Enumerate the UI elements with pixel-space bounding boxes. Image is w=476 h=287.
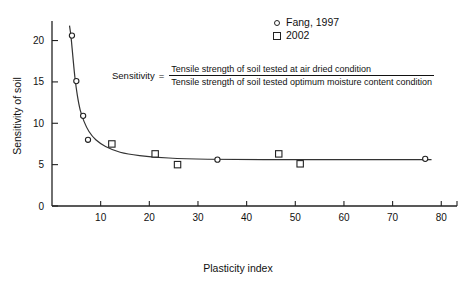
square-marker-icon	[272, 31, 281, 40]
x-tick-label: 10	[95, 212, 107, 223]
x-tick-label: 80	[436, 212, 448, 223]
x-tick-label: 40	[241, 212, 253, 223]
x-tick-label: 50	[290, 212, 302, 223]
circle-marker-icon	[272, 18, 281, 27]
equation-denominator: Tensile strength of soil tested optimum …	[169, 76, 434, 87]
chart-figure: 102030405060708005101520 Fang, 1997 2002…	[0, 0, 476, 287]
y-tick-label: 15	[33, 76, 45, 87]
axis-group	[52, 21, 457, 206]
chart-legend: Fang, 1997 2002	[272, 16, 339, 42]
data-point-circle	[74, 78, 79, 83]
fit-curve-group	[70, 26, 432, 160]
equation-numerator: Tensile strength of soil tested at air d…	[169, 64, 373, 75]
y-axis-label: Sensitivity of soil	[11, 41, 23, 191]
data-point-square	[109, 141, 115, 147]
y-tick-label: 0	[38, 201, 44, 212]
equation-fraction: Tensile strength of soil tested at air d…	[169, 64, 434, 87]
equation-equals-sign: =	[159, 70, 165, 81]
y-tick-label: 5	[38, 159, 44, 170]
data-points-group	[69, 33, 427, 168]
x-tick-label: 70	[387, 212, 399, 223]
plot-canvas: 102030405060708005101520	[0, 0, 476, 287]
equation-lhs: Sensitivity	[112, 70, 155, 81]
legend-label-2002: 2002	[286, 29, 309, 42]
data-point-square	[276, 151, 282, 157]
fit-curve-path	[70, 26, 432, 160]
legend-label-fang: Fang, 1997	[286, 16, 339, 29]
data-point-circle	[81, 113, 86, 118]
x-tick-label: 20	[144, 212, 156, 223]
x-axis-label: Plasticity index	[0, 262, 476, 274]
data-point-square	[174, 161, 180, 167]
data-point-square	[297, 161, 303, 167]
y-tick-label: 10	[33, 118, 45, 129]
legend-item-2002: 2002	[272, 29, 339, 42]
x-tick-label: 30	[192, 212, 204, 223]
data-point-circle	[423, 156, 428, 161]
data-point-circle	[85, 137, 90, 142]
legend-item-fang: Fang, 1997	[272, 16, 339, 29]
data-point-square	[152, 151, 158, 157]
data-point-circle	[215, 157, 220, 162]
x-tick-label: 60	[338, 212, 350, 223]
sensitivity-equation-annotation: Sensitivity = Tensile strength of soil t…	[112, 64, 434, 87]
data-point-circle	[69, 33, 74, 38]
y-tick-label: 20	[33, 35, 45, 46]
